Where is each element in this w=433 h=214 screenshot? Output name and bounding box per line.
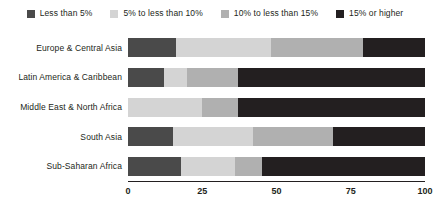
bar-segment bbox=[164, 68, 188, 87]
legend-swatch-5-to-10 bbox=[110, 10, 118, 18]
x-axis-tick-25: 25 bbox=[197, 186, 207, 196]
bar-segment bbox=[253, 127, 333, 146]
bar-segment bbox=[128, 68, 164, 87]
bar-row bbox=[128, 157, 425, 176]
x-axis-tick-100: 100 bbox=[417, 186, 432, 196]
plot-area bbox=[128, 33, 425, 181]
bar-segment bbox=[128, 157, 181, 176]
y-axis-label-0: Europe & Central Asia bbox=[0, 43, 122, 53]
bar-segment bbox=[271, 38, 363, 57]
x-axis-line bbox=[128, 181, 425, 182]
bar-segment bbox=[202, 98, 238, 117]
bar-segment bbox=[187, 68, 237, 87]
legend-label-less-than-5: Less than 5% bbox=[40, 9, 93, 18]
legend-swatch-less-than-5 bbox=[27, 10, 35, 18]
legend-swatch-15-or-higher bbox=[336, 10, 344, 18]
legend-item-5-to-10: 5% to less than 10% bbox=[110, 9, 202, 18]
bar-segment bbox=[238, 68, 425, 87]
bar-segment bbox=[128, 98, 202, 117]
bar-row bbox=[128, 68, 425, 87]
legend-swatch-10-to-15 bbox=[221, 10, 229, 18]
y-axis-label-3: South Asia bbox=[0, 132, 122, 142]
x-axis-tick-50: 50 bbox=[271, 186, 281, 196]
bar-segment bbox=[176, 38, 271, 57]
bar-segment bbox=[238, 98, 425, 117]
y-axis-label-2: Middle East & North Africa bbox=[0, 102, 122, 112]
bar-row bbox=[128, 38, 425, 57]
bar-segment bbox=[173, 127, 253, 146]
chart-legend: Less than 5% 5% to less than 10% 10% to … bbox=[0, 9, 430, 18]
bar-segment bbox=[363, 38, 425, 57]
x-axis-tick-0: 0 bbox=[125, 186, 130, 196]
bar-row bbox=[128, 98, 425, 117]
bar-segment bbox=[235, 157, 262, 176]
legend-item-15-or-higher: 15% or higher bbox=[336, 9, 403, 18]
y-axis-label-1: Latin America & Caribbean bbox=[0, 72, 122, 82]
legend-label-5-to-10: 5% to less than 10% bbox=[123, 9, 202, 18]
legend-item-less-than-5: Less than 5% bbox=[27, 9, 93, 18]
bar-segment bbox=[333, 127, 425, 146]
y-axis-label-4: Sub-Saharan Africa bbox=[0, 161, 122, 171]
x-axis-tick-75: 75 bbox=[346, 186, 356, 196]
legend-label-15-or-higher: 15% or higher bbox=[349, 9, 403, 18]
bar-segment bbox=[128, 38, 176, 57]
bar-row bbox=[128, 127, 425, 146]
bar-segment bbox=[181, 157, 234, 176]
legend-item-10-to-15: 10% to less than 15% bbox=[221, 9, 318, 18]
bar-segment bbox=[128, 127, 173, 146]
bar-segment bbox=[262, 157, 425, 176]
y-axis-category-labels: Europe & Central AsiaLatin America & Car… bbox=[0, 33, 122, 181]
legend-label-10-to-15: 10% to less than 15% bbox=[234, 9, 318, 18]
